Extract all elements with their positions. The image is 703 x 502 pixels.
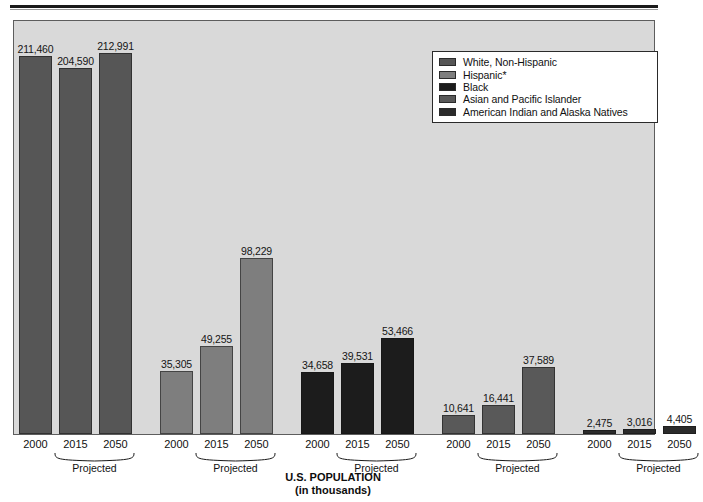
chart-title: U.S. POPULATION (in thousands) [0,471,666,496]
legend-item: American Indian and Alaska Natives [439,106,651,118]
bar [482,405,515,434]
top-horizontal-rule-hairline [10,9,658,10]
bar [59,68,92,434]
bar [442,415,475,434]
legend-item-label: White, Non-Hispanic [463,56,557,68]
chart-title-line2: (in thousands) [0,484,666,497]
bar-value-label: 53,466 [372,325,423,337]
bar-value-label: 16,441 [473,392,524,404]
bar [623,429,656,434]
chart-title-line1: U.S. POPULATION [0,471,666,484]
legend-item-label: Black [463,81,488,93]
bar-value-label: 10,641 [433,402,484,414]
bar-value-label: 204,590 [50,55,101,67]
bar [160,371,193,434]
bar [381,338,414,434]
top-horizontal-rule [10,5,658,8]
bar [301,372,334,434]
bar [19,56,52,434]
bar-value-label: 98,229 [231,245,282,257]
bar [663,426,696,434]
bar-value-label: 37,589 [513,354,564,366]
legend-swatch-icon [439,71,456,79]
legend-swatch-icon [439,108,456,116]
legend-swatch-icon [439,58,456,66]
x-axis-tick-label: 2050 [372,438,423,450]
legend-item: Black [439,81,651,93]
bar-value-label: 212,991 [90,40,141,52]
legend-item: Asian and Pacific Islander [439,93,651,105]
legend-swatch-icon [439,95,456,103]
legend-item: Hispanic* [439,68,651,80]
chart-plot-area: 211,460204,590212,99135,30549,25598,2293… [13,20,655,435]
legend-item-label: American Indian and Alaska Natives [463,106,628,118]
x-axis-tick-label: 2050 [513,438,564,450]
x-axis-tick-label: 2050 [231,438,282,450]
bar [200,346,233,434]
bar [522,367,555,434]
bar-value-label: 211,460 [10,43,61,55]
bar [240,258,273,434]
bar [99,53,132,434]
chart-legend: White, Non-HispanicHispanic*BlackAsian a… [432,51,658,123]
legend-item: White, Non-Hispanic [439,56,651,68]
legend-item-label: Asian and Pacific Islander [463,93,581,105]
legend-swatch-icon [439,83,456,91]
legend-item-label: Hispanic* [463,69,506,81]
bar-value-label: 49,255 [191,333,242,345]
x-axis-tick-label: 2050 [90,438,141,450]
x-axis-tick-label: 2050 [654,438,703,450]
bar [583,430,616,434]
bar [341,363,374,434]
bar-value-label: 35,305 [151,358,202,370]
bar-value-label: 39,531 [332,350,383,362]
bar-value-label: 4,405 [654,413,703,425]
